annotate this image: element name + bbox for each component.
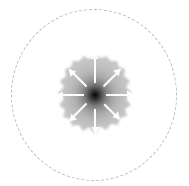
figure-root bbox=[0, 0, 189, 186]
collapsing-cloud bbox=[56, 55, 134, 135]
clipped-caption-text bbox=[22, 0, 172, 3]
infall-arrows bbox=[56, 55, 134, 135]
